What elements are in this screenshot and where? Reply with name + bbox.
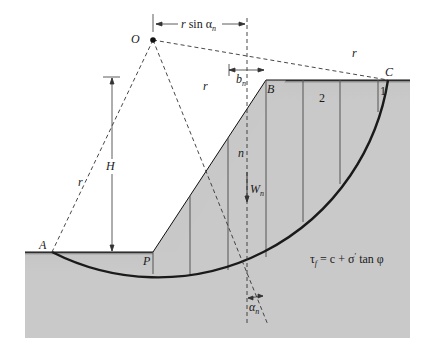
label-r-top: r: [352, 46, 357, 60]
label-C: C: [385, 65, 394, 79]
slope-stability-diagram: O r sin αn r r r H bn B C A P n Wn αn 2 …: [0, 0, 431, 338]
diagram-svg: O r sin αn r r r H bn B C A P n Wn αn 2 …: [0, 0, 431, 338]
label-r-mid: r: [203, 79, 208, 93]
label-H: H: [105, 159, 116, 173]
radius-OA: [52, 40, 153, 252]
bn-dimension: [229, 64, 264, 76]
label-r-left: r: [78, 175, 83, 189]
label-bn: bn: [236, 72, 246, 88]
label-slice-1: 1: [380, 84, 386, 98]
label-P: P: [142, 254, 151, 268]
shear-strength-equation: τf = c + σ′ tan φ: [310, 252, 384, 268]
soil-mass: [25, 80, 410, 338]
label-O: O: [131, 32, 140, 46]
label-B: B: [267, 82, 275, 96]
toe-surface: [25, 252, 153, 272]
label-A: A: [38, 238, 47, 252]
center-point-O: [150, 37, 156, 43]
label-n: n: [238, 146, 244, 160]
label-slice-2: 2: [319, 91, 325, 105]
label-r-sin-alpha: r sin αn: [181, 17, 216, 33]
